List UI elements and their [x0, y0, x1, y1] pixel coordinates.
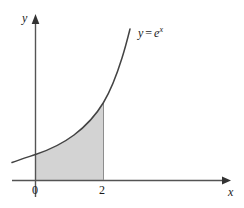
exponential-curve-figure: [0, 0, 244, 208]
x-axis-arrowhead: [222, 176, 231, 184]
x-tick-label-0: 0: [32, 184, 38, 196]
curve-equation-label: y=ex: [138, 26, 163, 39]
y-axis-arrowhead: [32, 14, 40, 24]
curve-equation-equals: =: [143, 26, 154, 40]
curve-equation-exponent: x: [159, 25, 163, 34]
y-axis-label: y: [22, 12, 27, 24]
x-tick-label-2: 2: [99, 184, 105, 196]
x-axis-label: x: [228, 186, 233, 198]
shaded-area-under-curve: [36, 103, 104, 181]
